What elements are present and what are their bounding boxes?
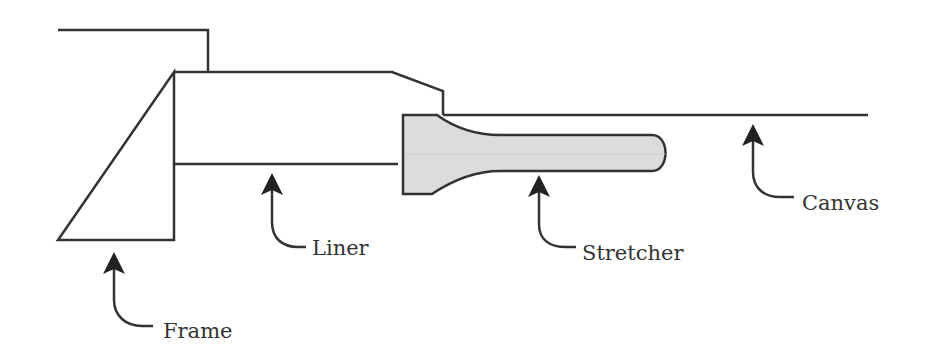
stretcher-label: Stretcher [582, 241, 684, 265]
framing-diagram: Frame Liner Stretcher Canvas [0, 0, 940, 360]
frame-arrow [103, 252, 153, 326]
frame-label: Frame [163, 319, 232, 343]
frame-shape [58, 30, 208, 240]
liner-arrow [261, 173, 306, 247]
canvas-arrow [742, 124, 794, 197]
stretcher-arrow [528, 175, 576, 247]
canvas-label: Canvas [802, 191, 879, 215]
liner-label: Liner [312, 236, 370, 260]
